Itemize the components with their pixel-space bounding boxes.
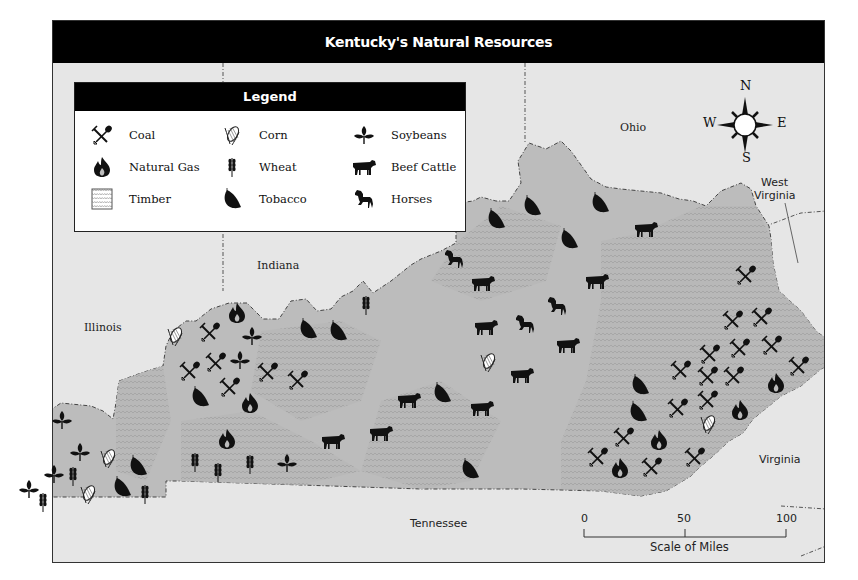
label-ohio: Ohio [620,121,646,134]
tobacco-leaf-icon [127,455,149,477]
tobacco-leaf-icon [485,208,507,230]
legend-label: Timber [129,192,171,206]
scale-line [582,527,788,541]
compass-n: N [740,78,751,93]
pick-shovel-icon [735,264,757,286]
legend-label: Coal [129,128,155,142]
soybean-plant-icon [241,325,263,347]
tobacco-leaf-icon [627,401,649,423]
legend-item-horses: Horses [351,187,432,211]
label-west-virginia-line2: Virginia [754,189,795,202]
compass-s: S [742,150,751,165]
corn-icon [164,325,186,347]
corn-icon [697,413,719,435]
label-indiana: Indiana [257,259,299,272]
wheat-icon [219,155,245,179]
pick-shovel-icon [205,351,227,373]
flame-icon [609,457,631,479]
soybean-plant-icon [229,349,251,371]
cow-icon [555,334,581,356]
legend-label: Wheat [259,160,297,174]
legend-label: Tobacco [259,192,307,206]
flame-icon [648,429,670,451]
pick-shovel-icon [641,456,663,478]
compass-icon [715,95,775,155]
wheat-icon [134,483,156,505]
legend-item-beef-cattle: Beef Cattle [351,155,456,179]
flame-icon [765,372,787,394]
pick-shovel-icon [697,389,719,411]
flame-icon [239,392,261,414]
tobacco-leaf-icon [459,458,481,480]
pick-shovel-icon [751,306,773,328]
pick-shovel-icon [699,343,721,365]
horse-icon [514,313,536,335]
soybean-plant-icon [351,123,377,147]
legend-heading: Legend [75,83,465,111]
soybean-plant-icon [69,441,91,463]
pick-shovel-icon [729,337,751,359]
corn-icon [97,447,119,469]
pick-shovel-icon [667,397,689,419]
flame-icon [226,302,248,324]
scale-tick-100: 100 [776,512,797,525]
horse-icon [546,295,568,317]
corn-icon [219,123,245,147]
horse-icon [443,248,465,270]
timber-pattern-icon [89,187,115,211]
pick-shovel-icon [613,426,635,448]
flame-icon [729,399,751,421]
pick-shovel-icon [199,321,221,343]
legend-item-corn: Corn [219,123,288,147]
scale-tick-0: 0 [581,512,588,525]
tobacco-leaf-icon [629,374,651,396]
cow-icon [469,397,495,419]
cow-icon [368,422,394,444]
compass-rose [715,95,775,155]
label-virginia: Virginia [759,453,800,466]
map-title: Kentucky's Natural Resources [53,21,824,63]
legend-label: Corn [259,128,288,142]
pick-shovel-icon [761,334,783,356]
pick-shovel-icon [722,309,744,331]
pick-shovel-icon [670,359,692,381]
wheat-icon [355,294,377,316]
label-tennessee: Tennessee [410,517,467,530]
cow-icon [320,430,346,452]
tobacco-leaf-icon [297,318,319,340]
tobacco-leaf-icon [219,187,245,211]
cow-icon [633,218,659,240]
cow-icon [470,272,496,294]
pick-shovel-icon [587,446,609,468]
tobacco-leaf-icon [111,476,133,498]
compass-e: E [777,115,787,130]
compass-w: W [703,115,716,130]
pick-shovel-icon [287,369,309,391]
legend: Legend Coal Natural Gas Timber Corn Whea… [74,82,466,232]
pick-shovel-icon [684,446,706,468]
cow-icon [351,155,377,179]
tobacco-leaf-icon [521,195,543,217]
scale-tick-50: 50 [677,512,691,525]
pick-shovel-icon [179,360,201,382]
pick-shovel-icon [257,361,279,383]
horse-icon [351,187,377,211]
tobacco-leaf-icon [327,320,349,342]
wheat-icon [184,451,206,473]
soybean-plant-icon [276,452,298,474]
soybean-plant-icon [51,409,73,431]
legend-item-timber: Timber [89,187,171,211]
label-west-virginia-line1: West [761,176,788,189]
pick-shovel-icon [723,365,745,387]
tobacco-leaf-icon [189,386,211,408]
scale-label: Scale of Miles [650,540,729,554]
legend-item-wheat: Wheat [219,155,297,179]
wheat-icon [62,465,84,487]
legend-item-soybeans: Soybeans [351,123,447,147]
pick-shovel-icon [697,365,719,387]
pick-shovel-icon [89,123,115,147]
tobacco-leaf-icon [431,382,453,404]
cow-icon [509,364,535,386]
cow-icon [396,389,422,411]
legend-label: Beef Cattle [391,160,456,174]
